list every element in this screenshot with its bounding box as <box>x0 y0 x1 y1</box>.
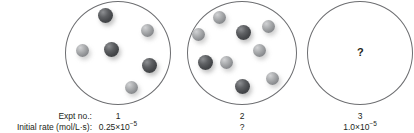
molecule-sphere-light <box>213 11 226 24</box>
molecule-sphere-dark <box>142 58 157 73</box>
molecule-sphere-dark <box>236 25 251 40</box>
initial-rate-value-1: 0.25×10−5 <box>99 122 137 133</box>
molecule-sphere-light <box>76 44 89 57</box>
molecule-sphere-dark <box>104 42 119 57</box>
molecule-sphere-dark <box>98 8 113 23</box>
reaction-rate-figure: ?Expt no.:Initial rate (mol/L·s):10.25×1… <box>0 0 414 133</box>
expt-no-value-2: 2 <box>240 111 245 122</box>
flask-unknown-marker: ? <box>357 47 364 58</box>
expt-no-value-3: 3 <box>358 111 363 122</box>
initial-rate-mantissa-3: 1.0×10 <box>343 122 369 132</box>
molecule-sphere-light <box>262 20 275 33</box>
initial-rate-exponent-1: −5 <box>130 120 137 127</box>
row-label-expt-no: Expt no.: <box>0 111 92 122</box>
molecule-sphere-dark <box>235 79 250 94</box>
molecule-sphere-light <box>220 56 233 69</box>
initial-rate-mantissa-1: 0.25×10 <box>99 122 130 132</box>
initial-rate-exponent-3: −5 <box>369 120 376 127</box>
expt-no-value-1: 1 <box>116 111 121 122</box>
initial-rate-value-2: ? <box>240 122 245 133</box>
row-label-initial-rate: Initial rate (mol/L·s): <box>0 122 92 133</box>
molecule-sphere-light <box>125 81 138 94</box>
molecule-sphere-light <box>253 44 266 57</box>
molecule-sphere-light <box>141 24 154 37</box>
molecule-sphere-dark <box>198 55 213 70</box>
initial-rate-value-3: 1.0×10−5 <box>343 122 377 133</box>
molecule-sphere-light <box>192 28 205 41</box>
molecule-sphere-light <box>266 72 279 85</box>
initial-rate-mantissa-2: ? <box>240 122 245 132</box>
